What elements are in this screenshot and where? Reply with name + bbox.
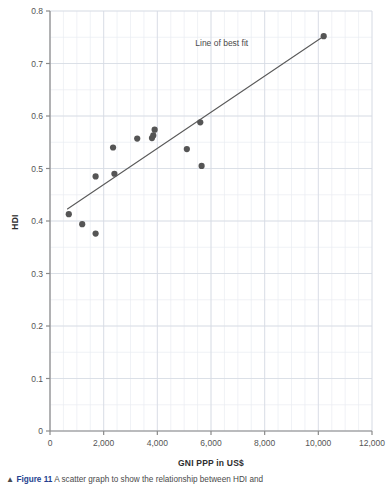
y-tick-label: 0.7 xyxy=(31,59,43,69)
figure-container: 00.10.20.30.40.50.60.70.8 02,0004,0006,0… xyxy=(0,0,388,484)
data-point xyxy=(152,127,158,133)
data-point xyxy=(199,163,205,169)
data-point xyxy=(184,146,190,152)
data-point xyxy=(93,231,99,237)
y-tick-label: 0.2 xyxy=(31,321,43,331)
y-tick-label: 0.3 xyxy=(31,269,43,279)
y-tick-label: 0.1 xyxy=(31,374,43,384)
annotation-label: Line of best fit xyxy=(195,38,249,48)
data-point xyxy=(79,221,85,227)
data-point xyxy=(66,211,72,217)
y-tick-label: 0.8 xyxy=(31,6,43,16)
x-tick-label: 2,000 xyxy=(93,438,115,448)
data-point xyxy=(134,135,140,141)
x-tick-label: 4,000 xyxy=(147,438,169,448)
y-tick-label: 0.5 xyxy=(31,164,43,174)
caption-body: A scatter graph to show the relationship… xyxy=(54,475,263,484)
scatter-chart: 00.10.20.30.40.50.60.70.8 02,0004,0006,0… xyxy=(0,0,388,484)
y-tick-label: 0.4 xyxy=(31,216,43,226)
x-axis-title: GNI PPP in US$ xyxy=(178,458,244,468)
data-point xyxy=(150,132,156,138)
x-tick-label: 8,000 xyxy=(254,438,276,448)
chart-background xyxy=(0,0,388,484)
y-tick-label: 0 xyxy=(38,426,43,436)
chart-annotations: Line of best fit xyxy=(195,38,249,48)
y-axis-title: HDI xyxy=(10,214,20,229)
data-point xyxy=(197,119,203,125)
x-tick-label: 10,000 xyxy=(305,438,331,448)
data-point xyxy=(93,173,99,179)
data-point xyxy=(111,171,117,177)
data-point xyxy=(110,144,116,150)
x-tick-label: 12,000 xyxy=(359,438,385,448)
caption-figure-label: Figure 11 xyxy=(16,475,52,484)
y-tick-label: 0.6 xyxy=(31,111,43,121)
figure-caption: ▲ Figure 11 A scatter graph to show the … xyxy=(6,474,388,484)
data-point xyxy=(321,33,327,39)
caption-marker: ▲ xyxy=(6,475,14,484)
x-tick-label: 0 xyxy=(48,438,53,448)
x-tick-label: 6,000 xyxy=(200,438,222,448)
